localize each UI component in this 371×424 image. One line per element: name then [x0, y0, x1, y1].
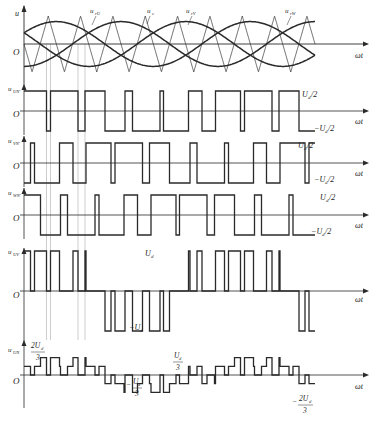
y-axis-arrow-icon: [22, 5, 27, 12]
svg-text:u: u: [8, 85, 12, 93]
level-neg-2Ud-3: − 2U d 3: [292, 394, 313, 415]
svg-text:d: d: [179, 356, 182, 361]
svg-text:ωt: ωt: [355, 169, 364, 178]
svg-text:rW: rW: [290, 11, 297, 16]
svg-text:/2: /2: [327, 175, 334, 184]
svg-text:VN': VN': [13, 141, 21, 146]
guide-lines: [47, 44, 86, 340]
svg-text:ωt: ωt: [355, 295, 364, 304]
svg-text:O: O: [13, 213, 20, 223]
waveform-uUN-x-arrow-icon: [363, 373, 369, 378]
x-axis-arrow-icon: [363, 42, 369, 47]
waveform-uUNp-y-arrow-icon: [22, 84, 27, 90]
svg-text:d: d: [138, 382, 141, 387]
origin-label: O: [13, 47, 20, 57]
svg-text:u: u: [90, 7, 94, 15]
label-u-rW: u rW: [285, 7, 297, 25]
svg-text:u: u: [147, 7, 151, 15]
svg-text:d: d: [151, 254, 154, 259]
svg-text:u: u: [285, 7, 289, 15]
svg-text:WN': WN': [13, 193, 22, 198]
svg-text:3: 3: [302, 406, 307, 415]
waveform-uUV: [24, 251, 315, 331]
label-u-c: u c: [147, 7, 154, 24]
svg-text:UN': UN': [13, 89, 21, 94]
level-neg-Ud-3: − U d 3: [126, 377, 142, 398]
svg-text:2U: 2U: [31, 341, 41, 350]
svg-text:/2: /2: [324, 227, 331, 236]
label-u-rU: u rU: [90, 7, 101, 25]
svg-text:u: u: [186, 7, 190, 15]
svg-text:/2: /2: [310, 90, 317, 99]
panel-uVNp-labels: u VN' O ωt U d /2 −U d /2: [8, 137, 364, 185]
waveform-uUV-x-arrow-icon: [363, 289, 369, 294]
spwm-diagram: u O ωt u rU u c u rV u rW u UN' O ωt U: [0, 0, 371, 424]
level-Ud-3: U d 3: [173, 351, 183, 372]
svg-text:ωt: ωt: [355, 221, 364, 230]
svg-text:−: −: [292, 397, 297, 406]
level-2Ud-3: 2U d 3: [31, 341, 45, 362]
svg-text:UN: UN: [13, 350, 20, 355]
svg-text:c: c: [152, 11, 154, 16]
svg-text:/2: /2: [327, 124, 334, 133]
waveform-uWNp-x-arrow-icon: [363, 213, 369, 218]
svg-text:3: 3: [35, 353, 40, 362]
svg-text:2U: 2U: [299, 394, 309, 403]
svg-text:d: d: [41, 346, 44, 351]
waveform-figure: u O ωt u rU u c u rV u rW u UN' O ωt U: [0, 0, 371, 424]
svg-text:O: O: [13, 290, 20, 300]
waveform-uUN-y-arrow-icon: [22, 340, 27, 346]
panel-reference: u O ωt u rU u c u rV u rW: [13, 5, 369, 84]
svg-text:u: u: [8, 248, 12, 256]
panel-uUNp-labels: u UN' O ωt U d /2 −U d /2: [8, 85, 364, 134]
svg-text:−: −: [126, 380, 131, 389]
svg-text:/2: /2: [306, 141, 313, 150]
svg-text:O: O: [13, 109, 20, 119]
svg-text:O: O: [13, 376, 20, 386]
panel-uUN-labels: u UN O ωt 2U d 3 U d 3 − U d 3 − 2U d 3: [8, 341, 364, 415]
waveform-uUNp-x-arrow-icon: [363, 109, 369, 114]
svg-text:rV: rV: [191, 11, 197, 16]
axis-label-u: u: [15, 9, 19, 18]
svg-text:3: 3: [175, 363, 180, 372]
svg-text:u: u: [8, 189, 12, 197]
panel-uWNp-labels: u WN' O ωt U d /2 −U d /2: [8, 189, 364, 237]
waveform-uVNp-x-arrow-icon: [363, 161, 369, 166]
svg-text:rU: rU: [95, 11, 101, 16]
svg-text:O: O: [13, 161, 20, 171]
svg-text:u: u: [8, 346, 12, 354]
svg-text:/2: /2: [328, 193, 335, 202]
svg-text:u: u: [8, 137, 12, 145]
svg-text:3: 3: [134, 389, 139, 398]
waveform-uVNp-y-arrow-icon: [22, 136, 27, 142]
svg-text:d: d: [309, 399, 312, 404]
svg-text:ωt: ωt: [355, 382, 364, 391]
waveform-uWNp-y-arrow-icon: [22, 188, 27, 194]
svg-text:ωt: ωt: [355, 117, 364, 126]
svg-text:UV: UV: [13, 252, 20, 257]
omega-t-label: ωt: [355, 51, 364, 60]
